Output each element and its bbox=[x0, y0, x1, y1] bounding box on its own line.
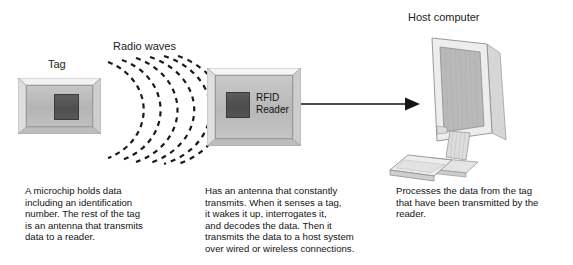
caption-tag-line-2: including an identification bbox=[25, 197, 143, 209]
reader-label: RFID Reader bbox=[256, 92, 302, 116]
caption-reader-line-2: transmits. When it senses a tag, bbox=[205, 197, 354, 209]
rfid-reader-graphic: RFID Reader bbox=[207, 68, 301, 146]
caption-reader-line-1: Has an antenna that constantly bbox=[205, 185, 354, 197]
tag-label: Tag bbox=[48, 58, 66, 71]
caption-reader-line-3: it wakes it up, interrogates it, bbox=[205, 208, 354, 220]
caption-reader: Has an antenna that constantly transmits… bbox=[205, 185, 354, 255]
reader-antenna-chip bbox=[226, 92, 250, 118]
tag-microchip bbox=[54, 94, 79, 120]
rfid-tag-graphic bbox=[18, 78, 101, 134]
rfid-diagram-canvas: Tag Radio waves bbox=[0, 0, 573, 265]
host-computer-label: Host computer bbox=[408, 11, 480, 24]
caption-reader-line-4: and decodes the data. Then it bbox=[205, 220, 354, 232]
caption-tag-line-4: is an antenna that transmits bbox=[25, 220, 143, 232]
caption-host: Processes the data from the tag that hav… bbox=[396, 185, 538, 220]
caption-tag: A microchip holds data including an iden… bbox=[25, 185, 143, 243]
reader-label-line-1: RFID bbox=[256, 92, 302, 104]
caption-tag-line-5: data to a reader. bbox=[25, 231, 143, 243]
caption-host-line-2: that have been transmitted by the bbox=[396, 197, 538, 209]
caption-host-line-1: Processes the data from the tag bbox=[396, 185, 538, 197]
reader-label-line-2: Reader bbox=[256, 104, 302, 116]
caption-reader-line-6: over wired or wireless connections. bbox=[205, 243, 354, 255]
radio-waves-label: Radio waves bbox=[113, 40, 176, 53]
caption-tag-line-3: number. The rest of the tag bbox=[25, 208, 143, 220]
caption-tag-line-1: A microchip holds data bbox=[25, 185, 143, 197]
caption-host-line-3: reader. bbox=[396, 208, 538, 220]
caption-reader-line-5: transmits the data to a host system bbox=[205, 231, 354, 243]
